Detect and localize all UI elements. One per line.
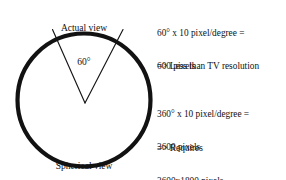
spherical-view-conclusion: => Requires 3600x1800 pixels for spheric…	[157, 121, 227, 180]
actual-view-conclusion: => Less than TV resolution	[157, 39, 259, 94]
actual-view-label-line2: 60°	[0, 57, 168, 68]
spherical-view-label-line1: Spherical view	[8, 161, 160, 172]
spherical-view-conclusion-line2: 3600x1800 pixels	[157, 176, 227, 180]
actual-view-conclusion-line1: => Less than TV resolution	[157, 61, 259, 72]
spherical-view-label: Spherical view 360°	[8, 139, 160, 180]
actual-view-label: Actual view 60°	[0, 1, 168, 91]
spherical-view-calculation-line1: 360° x 10 pixel/degree =	[157, 109, 249, 120]
spherical-view-conclusion-line1: => Requires	[157, 143, 227, 154]
diagram-canvas: Actual view 60° Spherical view 360° 60° …	[0, 0, 286, 180]
actual-view-calculation-line1: 60° x 10 pixel/degree =	[157, 28, 244, 39]
actual-view-label-line1: Actual view	[0, 23, 168, 34]
